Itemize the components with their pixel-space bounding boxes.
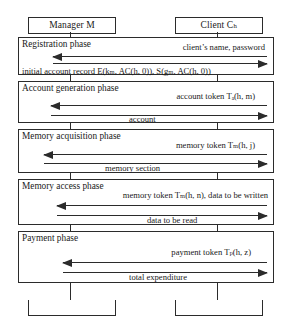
phase-box-registration: Registration phase client’s name, passwo…	[18, 37, 274, 75]
lifeline-client-stub-5	[217, 283, 218, 300]
actor-footer-client	[175, 300, 263, 316]
message-payment-1: total expenditure	[19, 262, 273, 273]
actor-footer-manager	[28, 300, 116, 316]
phase-box-account-generation: Account generation phase account token T…	[18, 81, 274, 123]
actor-header-manager: Manager M	[28, 17, 116, 34]
message-account-generation-0-label: account token Tₐ(h, m)	[176, 91, 255, 101]
phase-box-payment: Payment phase payment token Tₚ(h, z) tot…	[18, 231, 274, 283]
message-registration-0-label: client’s name, password	[183, 42, 265, 52]
message-payment-0-label: payment token Tₚ(h, z)	[171, 247, 251, 257]
message-registration-1: initial account record E(kₘ, AC(h, 0)), …	[19, 56, 273, 67]
message-account-generation-1-label: account	[129, 114, 156, 124]
message-memory-acquisition-1: memory section	[19, 153, 273, 164]
actor-header-client-label: Client Cₕ	[201, 21, 238, 31]
message-memory-access-0: memory token Tₘ(h, n), data to be writte…	[19, 190, 273, 201]
actor-header-manager-label: Manager M	[49, 21, 94, 31]
message-memory-access-1: data to be read	[19, 205, 273, 216]
lifeline-manager-stub-5	[70, 283, 71, 300]
sequence-diagram: Manager M Client Cₕ Registration phase c…	[0, 0, 292, 322]
message-account-generation-1: account	[19, 105, 273, 116]
actor-header-client: Client Cₕ	[175, 17, 263, 34]
phase-box-memory-access: Memory access phase memory token Tₘ(h, n…	[18, 179, 274, 225]
message-memory-acquisition-0-label: memory token Tₘ(h, j)	[176, 140, 255, 150]
arrow-registration-1-right	[53, 63, 267, 64]
message-memory-access-1-label: data to be read	[147, 215, 197, 225]
phase-title-payment: Payment phase	[22, 233, 78, 244]
phase-box-memory-acquisition: Memory acquisition phase memory token Tₘ…	[18, 129, 274, 173]
message-account-generation-0: account token Tₐ(h, m)	[19, 91, 273, 102]
message-registration-0: client’s name, password	[19, 42, 273, 53]
message-registration-1-label: initial account record E(kₘ, AC(h, 0)), …	[22, 66, 211, 76]
message-memory-access-0-label: memory token Tₘ(h, n), data to be writte…	[123, 190, 268, 200]
message-payment-0: payment token Tₚ(h, z)	[19, 247, 273, 258]
message-memory-acquisition-0: memory token Tₘ(h, j)	[19, 140, 273, 151]
message-memory-acquisition-1-label: memory section	[105, 163, 160, 173]
message-payment-1-label: total expenditure	[129, 272, 187, 282]
